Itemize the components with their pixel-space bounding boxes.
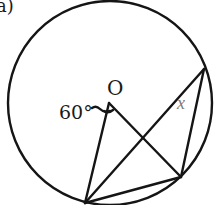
unknown-angle-x: x: [176, 93, 185, 113]
center-label-o: O: [107, 76, 123, 100]
part-label: a): [0, 0, 14, 16]
circle-theorem-diagram: a) O 60° x: [0, 0, 218, 205]
chord-a-to-b: [85, 177, 181, 203]
chord-a-to-c: [85, 69, 204, 203]
chord-b-to-c: [181, 69, 204, 177]
radius-o-to-b: [109, 103, 181, 177]
angle-label-60: 60°: [59, 101, 93, 123]
